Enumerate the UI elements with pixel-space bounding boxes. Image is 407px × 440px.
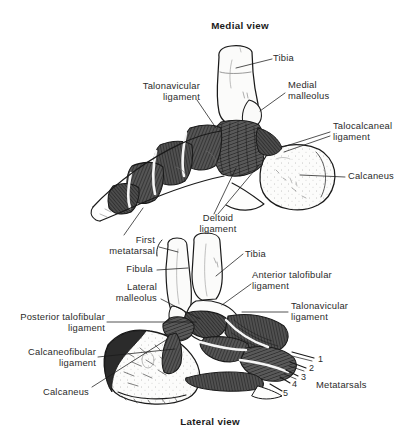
metatarsal-number-4: 4 (292, 380, 297, 389)
metatarsal-number-3: 3 (301, 373, 306, 382)
metatarsal-number-5: 5 (283, 389, 288, 398)
metatarsal-number-2: 2 (309, 364, 314, 373)
label-posterior-talofibular-line2: ligament (10, 322, 105, 334)
medial-view-drawing (91, 46, 345, 235)
lateral-view-drawing (92, 233, 314, 404)
lateral-view-title: Lateral view (160, 416, 260, 427)
label-tibia-lateral: Tibia (245, 248, 266, 260)
metatarsal-number-1: 1 (318, 355, 323, 364)
label-talonavicular-medial-line2: ligament (110, 91, 200, 103)
label-anterior-talofibular-line1: Anterior talofibular (252, 269, 332, 281)
label-calcaneofibular-line1: Calcaneofibular (10, 346, 96, 358)
label-calcaneus-medial: Calcaneus (348, 170, 394, 182)
talocalcaneal-ligament (256, 128, 282, 155)
label-talonavicular-lateral-line1: Talonavicular (291, 300, 348, 312)
label-medial-malleolus-line1: Medial (288, 79, 317, 91)
label-talocalcaneal-line1: Talocalcaneal (333, 120, 392, 132)
label-anterior-talofibular-line2: ligament (252, 280, 289, 292)
label-lateral-malleolus-line2: malleolus (85, 292, 157, 304)
ankle-ligaments-figure: Medial view Tibia Medial malleolus Talon… (0, 0, 407, 440)
label-metatarsals: Metatarsals (316, 379, 367, 391)
label-medial-malleolus-line2: malleolus (288, 90, 329, 102)
label-calcaneus-lateral: Calcaneus (43, 386, 89, 398)
label-tibia-medial: Tibia (273, 52, 294, 64)
label-fibula: Fibula (95, 263, 153, 275)
label-talocalcaneal-line2: ligament (333, 131, 370, 143)
medial-view-title: Medial view (190, 20, 290, 31)
label-talonavicular-lateral-line2: ligament (291, 311, 328, 323)
label-first-metatarsal-line2: metatarsal (85, 245, 155, 257)
label-calcaneofibular-line2: ligament (10, 357, 96, 369)
label-first-metatarsal-line1: First (85, 234, 155, 246)
label-deltoid-line1: Deltoid (183, 212, 253, 224)
label-talonavicular-medial-line1: Talonavicular (110, 80, 200, 92)
label-lateral-malleolus-line1: Lateral (85, 281, 157, 293)
label-deltoid-line2: ligament (183, 223, 253, 235)
label-posterior-talofibular-line1: Posterior talofibular (10, 311, 105, 323)
